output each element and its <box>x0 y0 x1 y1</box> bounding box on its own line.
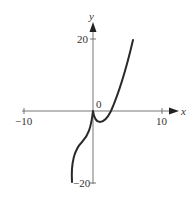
y-axis-arrow-icon <box>90 22 97 32</box>
y-tick-label-neg20: −20 <box>73 177 91 189</box>
y-axis-label: y <box>88 10 94 22</box>
x-tick-label-neg10: −10 <box>15 115 33 127</box>
origin-label: 0 <box>96 98 102 110</box>
y-tick-label-20: 20 <box>77 33 89 45</box>
x-axis-label: x <box>180 105 186 117</box>
chart-plot: −10 10 20 −20 0 x y <box>0 0 192 197</box>
x-axis-arrow-icon <box>169 108 179 115</box>
x-tick-label-10: 10 <box>156 115 168 127</box>
